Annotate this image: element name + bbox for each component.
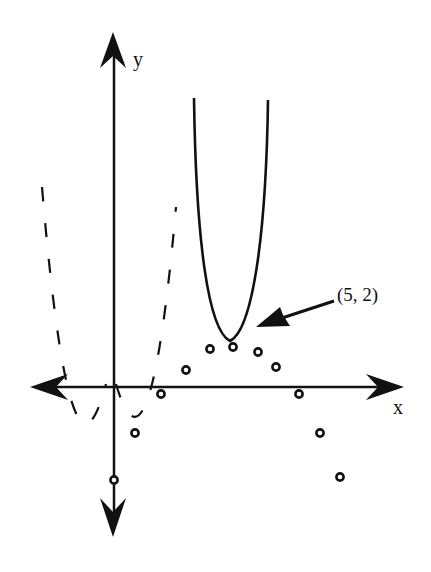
- vertex-label: (5, 2): [337, 284, 378, 306]
- data-point: [272, 363, 279, 370]
- diagram-canvas: x y (5, 2): [0, 0, 431, 572]
- data-point: [229, 343, 236, 350]
- data-point: [336, 473, 343, 480]
- data-point: [131, 429, 138, 436]
- solid-parabola: [194, 98, 268, 341]
- data-point: [110, 476, 117, 483]
- data-point: [206, 345, 213, 352]
- x-axis-label: x: [393, 396, 403, 418]
- y-axis: y: [100, 32, 143, 537]
- data-point: [254, 348, 261, 355]
- data-point: [157, 390, 164, 397]
- data-point: [295, 390, 302, 397]
- y-axis-label: y: [133, 48, 143, 71]
- data-point: [316, 429, 323, 436]
- data-point: [182, 366, 189, 373]
- data-points: [110, 343, 343, 483]
- x-axis: x: [30, 374, 404, 418]
- vertex-annotation: (5, 2): [256, 284, 378, 327]
